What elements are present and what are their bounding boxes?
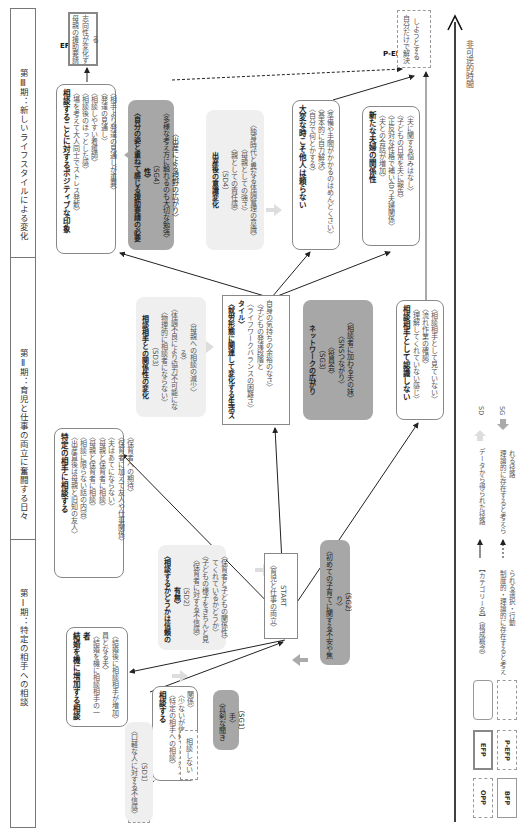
legend-solid-arrow-text: データから得られた径路 [476,448,485,538]
legend-dashed-arrow-text: 理論的に存在すると考えられる径路 [497,450,515,540]
legend-arrows [0,0,525,834]
legend-sd-text: SD [476,406,485,415]
legend-sg-text: SG [497,406,506,415]
